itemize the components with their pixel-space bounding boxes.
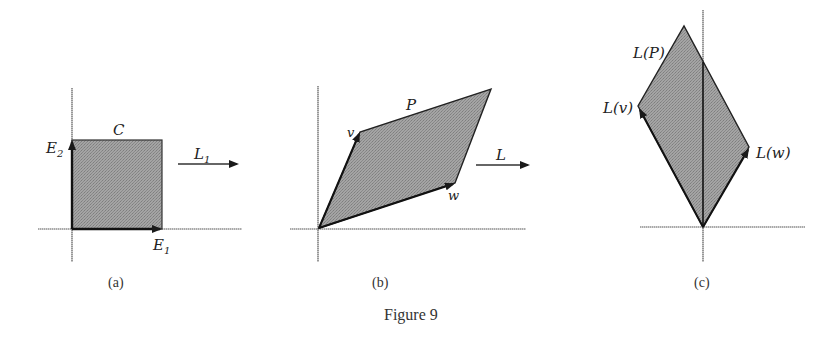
caption-b: (b) [372,275,389,291]
figure-9: C E2 E1 L1 (a) P v w L (b) L(P) L(v) L(w… [0,0,838,343]
label-w: w [448,188,459,203]
label-l1: L1 [193,145,210,165]
panel-c: L(P) L(v) L(w) (c) [602,10,805,291]
label-l: L [495,146,506,164]
label-p: P [405,96,417,114]
unit-square-c [72,140,162,229]
label-e2: E2 [45,139,63,159]
panel-b: P v w L (b) [290,86,528,291]
label-lw: L(w) [755,144,791,162]
label-lp: L(P) [632,44,665,62]
label-c: C [113,121,125,139]
label-lv: L(v) [602,99,633,117]
caption-a: (a) [108,275,124,291]
label-v: v [347,125,355,140]
parallelogram-p [319,89,491,228]
caption-c: (c) [694,275,710,291]
panel-a: C E2 E1 L1 (a) [38,88,242,291]
label-e1: E1 [152,236,170,256]
figure-caption: Figure 9 [384,306,438,324]
